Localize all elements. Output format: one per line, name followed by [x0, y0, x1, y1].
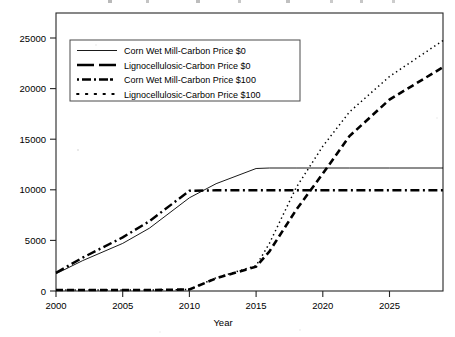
x-tick-label-2020: 2020 — [312, 300, 333, 311]
x-axis-title: Year — [213, 317, 232, 328]
x-tick-label-2010: 2010 — [179, 300, 200, 311]
y-tick-label-0: 0 — [41, 286, 46, 297]
legend-label-corn-wet-mill-carbon-price-0: Corn Wet Mill-Carbon Price $0 — [124, 46, 246, 56]
x-tick-label-2015: 2015 — [246, 300, 267, 311]
y-tick-label-5000: 5000 — [25, 235, 46, 246]
x-tick-label-2005: 2005 — [112, 300, 133, 311]
legend-label-lignocellulosic-carbon-price-0: Lignocellulosic-Carbon Price $0 — [124, 61, 251, 71]
y-tick-label-10000: 10000 — [20, 184, 46, 195]
y-tick-label-15000: 15000 — [20, 134, 46, 145]
y-tick-label-25000: 25000 — [20, 33, 46, 44]
x-tick-label-2000: 2000 — [45, 300, 66, 311]
chart-figure: 25000 20000 15000 10000 5000 0 2000 2005… — [0, 0, 455, 337]
legend-label-corn-wet-mill-carbon-price-100: Corn Wet Mill-Carbon Price $100 — [124, 75, 256, 85]
chart-legend: Corn Wet Mill-Carbon Price $0 Lignocellu… — [70, 40, 300, 101]
x-tick-label-2025: 2025 — [379, 300, 400, 311]
y-tick-label-20000: 20000 — [20, 83, 46, 94]
legend-label-lignocellulosic-carbon-price-100: Lignocellulosic-Carbon Price $100 — [124, 90, 261, 100]
chart-canvas: 25000 20000 15000 10000 5000 0 2000 2005… — [0, 0, 455, 337]
